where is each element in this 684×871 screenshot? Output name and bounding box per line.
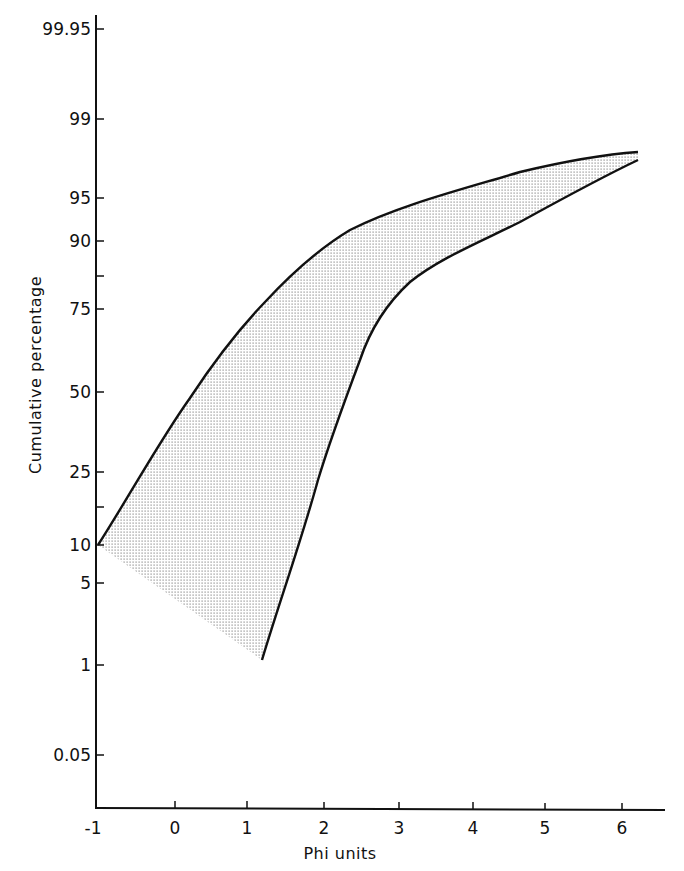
- x-axis: [95, 808, 665, 810]
- x-tick-label: 3: [394, 818, 405, 838]
- x-axis-tick-labels: -1 0 1 2 3 4 5 6: [85, 818, 628, 838]
- y-tick-label: 95: [69, 188, 91, 208]
- y-axis-ticks: [96, 29, 104, 755]
- y-tick-label: 0.05: [53, 745, 91, 765]
- x-axis-title: Phi units: [303, 844, 376, 863]
- y-tick-label: 25: [69, 462, 91, 482]
- x-tick-label: 6: [617, 818, 628, 838]
- x-tick-label: 2: [319, 818, 330, 838]
- x-tick-label: 4: [468, 818, 479, 838]
- y-tick-label: 10: [69, 535, 91, 555]
- y-tick-label: 50: [69, 382, 91, 402]
- x-tick-label: 0: [170, 818, 181, 838]
- y-tick-label: 99.95: [42, 19, 91, 39]
- x-tick-label: 1: [242, 818, 253, 838]
- x-tick-label: -1: [85, 818, 102, 838]
- cumulative-curve-chart: 99.95 99 95 90 75 50 25 10 5 1 0.05 -1 0…: [0, 0, 684, 871]
- y-tick-label: 1: [80, 655, 91, 675]
- y-axis-title: Cumulative percentage: [26, 276, 45, 474]
- x-tick-label: 5: [540, 818, 551, 838]
- y-tick-label: 90: [69, 231, 91, 251]
- envelope-shaded-region: [98, 152, 638, 660]
- y-tick-label: 5: [80, 573, 91, 593]
- y-tick-label: 99: [69, 109, 91, 129]
- y-axis-tick-labels: 99.95 99 95 90 75 50 25 10 5 1 0.05: [42, 19, 91, 765]
- y-tick-label: 75: [69, 299, 91, 319]
